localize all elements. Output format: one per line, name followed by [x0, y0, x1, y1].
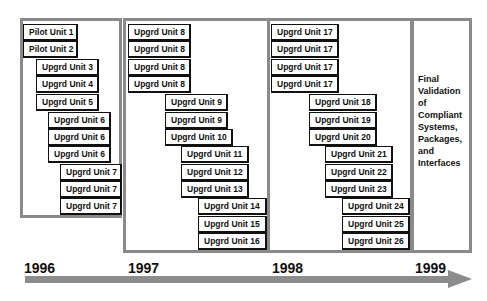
- unit-box: Upgrd Unit 8: [128, 76, 191, 93]
- unit-box: Upgrd Unit 17: [271, 76, 339, 93]
- unit-box: Upgrd Unit 24: [342, 198, 410, 215]
- final-line: Final: [418, 73, 462, 85]
- unit-box: Upgrd Unit 12: [181, 164, 249, 181]
- unit-box: Upgrd Unit 8: [128, 41, 191, 58]
- final-line: Compliant: [418, 109, 462, 121]
- final-line: Packages,: [418, 133, 462, 145]
- unit-box: Upgrd Unit 7: [60, 164, 122, 181]
- final-validation-text: Final Validation of Compliant Systems, P…: [418, 73, 462, 169]
- unit-box: Upgrd Unit 18: [309, 94, 377, 111]
- year-label-1996: 1996: [24, 260, 55, 276]
- unit-box: Upgrd Unit 14: [198, 198, 267, 215]
- year-label-1997: 1997: [128, 260, 159, 276]
- unit-box: Upgrd Unit 8: [128, 59, 191, 76]
- final-line: and: [418, 145, 462, 157]
- unit-box: Upgrd Unit 11: [181, 146, 249, 163]
- unit-box: Upgrd Unit 6: [48, 112, 111, 129]
- unit-box: Upgrd Unit 15: [198, 216, 267, 233]
- unit-box: Upgrd Unit 17: [271, 41, 339, 58]
- unit-box: Upgrd Unit 3: [36, 59, 99, 76]
- final-line: Systems,: [418, 121, 462, 133]
- unit-box: Upgrd Unit 26: [342, 233, 410, 250]
- unit-box: Upgrd Unit 25: [342, 216, 410, 233]
- unit-box: Upgrd Unit 7: [60, 198, 122, 215]
- unit-box: Upgrd Unit 7: [60, 181, 122, 198]
- unit-box: Upgrd Unit 22: [325, 164, 393, 181]
- unit-box: Upgrd Unit 9: [165, 112, 228, 129]
- final-line: Interfaces: [418, 157, 462, 169]
- unit-box: Upgrd Unit 20: [309, 129, 377, 146]
- timeline-arrow-head-icon: [448, 270, 472, 288]
- unit-box: Pilot Unit 1: [23, 24, 78, 41]
- unit-box: Upgrd Unit 4: [36, 76, 99, 93]
- unit-box: Upgrd Unit 6: [48, 146, 111, 163]
- unit-box: Upgrd Unit 6: [48, 129, 111, 146]
- unit-box: Upgrd Unit 23: [325, 181, 393, 198]
- unit-box: Upgrd Unit 10: [165, 129, 233, 146]
- final-line: Validation: [418, 85, 462, 97]
- unit-box: Upgrd Unit 17: [271, 24, 339, 41]
- unit-box: Upgrd Unit 17: [271, 59, 339, 76]
- unit-box: Upgrd Unit 9: [165, 94, 228, 111]
- unit-box: Upgrd Unit 5: [36, 94, 99, 111]
- final-line: of: [418, 97, 462, 109]
- unit-box: Upgrd Unit 16: [198, 233, 267, 250]
- year-label-1999: 1999: [415, 260, 446, 276]
- timeline-arrow-bar: [25, 276, 450, 283]
- year-label-1998: 1998: [272, 260, 303, 276]
- unit-box: Upgrd Unit 21: [325, 146, 393, 163]
- unit-box: Upgrd Unit 13: [181, 181, 249, 198]
- unit-box: Upgrd Unit 8: [128, 24, 191, 41]
- unit-box: Upgrd Unit 19: [309, 112, 377, 129]
- unit-box: Pilot Unit 2: [23, 41, 78, 58]
